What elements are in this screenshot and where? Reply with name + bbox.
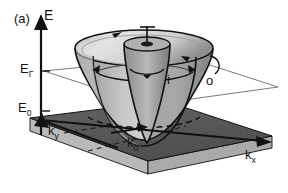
figure-panel-a: (a) E EΓ E0 ky kx k0 i o xyxy=(0,0,288,193)
energy-level-E0: E0 xyxy=(18,101,31,117)
kx-axis-label: kx xyxy=(245,148,256,164)
inner-rim-center-dot xyxy=(141,42,153,47)
energy-level-E0-symbol: E xyxy=(18,100,27,115)
inner-branch-label: i xyxy=(167,73,170,86)
energy-axis-label: E xyxy=(44,8,53,22)
energy-level-EG-subscript: Γ xyxy=(29,69,34,79)
ky-axis-subscript: y xyxy=(55,131,59,141)
energy-level-E0-subscript: 0 xyxy=(27,108,32,118)
panel-label: (a) xyxy=(14,12,30,25)
k0-subscript: 0 xyxy=(134,143,139,153)
outer-branch-label: o xyxy=(206,74,213,87)
kx-axis-subscript: x xyxy=(252,155,256,165)
ky-axis-label: ky xyxy=(48,124,59,140)
energy-level-ticks xyxy=(41,71,50,111)
energy-level-EG-symbol: E xyxy=(20,61,29,76)
energy-level-EG: EΓ xyxy=(20,62,33,78)
k0-label: k0 xyxy=(127,136,138,152)
